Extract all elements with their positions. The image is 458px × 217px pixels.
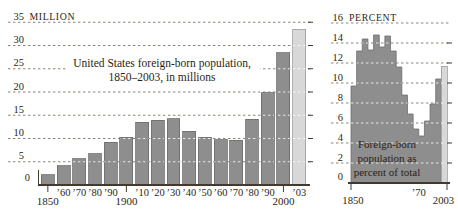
x-axis-label-minor: ’20: [151, 187, 165, 198]
y-axis-label: 14: [333, 32, 344, 43]
bar: [214, 140, 227, 185]
annotation-line: population as: [358, 152, 417, 164]
chart-title-line: 1850–2003, in millions: [108, 71, 216, 84]
x-axis-label-minor: ’70: [72, 187, 86, 198]
bar: [73, 159, 86, 185]
x-axis-label: 2003: [433, 194, 454, 206]
x-axis-label-minor: ’40: [182, 187, 196, 198]
x-axis-label-minor: ’70: [229, 187, 243, 198]
bar: [230, 140, 243, 185]
x-axis-label: ’70: [412, 186, 426, 198]
y-axis-label: 10: [333, 72, 344, 83]
y-axis-label: 16: [333, 12, 344, 23]
millions-bar-chart: 51015202530350MILLIONUnited States forei…: [8, 11, 313, 207]
x-axis-label-minor: ’30: [167, 187, 181, 198]
chart-title-line: United States foreign-born population,: [73, 57, 251, 70]
foreign-born-figure: 51015202530350MILLIONUnited States forei…: [0, 0, 458, 217]
bar: [104, 142, 117, 185]
foreign-born-charts: 51015202530350MILLIONUnited States forei…: [0, 0, 458, 217]
bar: [57, 166, 70, 185]
y-axis-label: 25: [14, 57, 25, 68]
bar: [136, 122, 149, 185]
y-axis-label: 2: [338, 152, 343, 163]
x-axis-label-minor: ’10: [135, 187, 149, 198]
y-axis-label: 12: [333, 52, 344, 63]
bar: [198, 137, 211, 185]
bar: [183, 131, 196, 185]
x-axis-label-minor: ’80: [88, 187, 102, 198]
y-axis-label: 6: [338, 112, 343, 123]
annotation-line: percent of total: [354, 166, 421, 178]
y-axis-label: 20: [14, 81, 25, 92]
y-axis-label-zero: 0: [25, 172, 30, 183]
bar: [167, 119, 180, 185]
percent-area-chart: 2468101214160PERCENTForeign-bornpopulati…: [331, 12, 454, 207]
bar: [89, 154, 102, 185]
bar: [277, 53, 290, 185]
y-axis-unit-label: PERCENT: [349, 12, 397, 23]
y-axis-label: 8: [338, 92, 343, 103]
y-axis-label-zero: 0: [338, 171, 343, 182]
annotation-line: Foreign-born: [358, 138, 417, 150]
bar: [41, 175, 54, 185]
y-axis-label: 10: [14, 127, 25, 138]
y-axis-label: 35: [14, 11, 25, 22]
x-axis-label-minor: ’60: [57, 187, 71, 198]
bar: [120, 137, 133, 185]
area-highlight: [441, 66, 447, 183]
x-axis-label: 1850: [342, 194, 363, 206]
x-axis-label-minor: ’60: [214, 187, 228, 198]
x-axis-label-minor: ’80: [245, 187, 259, 198]
y-axis-label: 30: [14, 34, 25, 45]
bar: [151, 120, 164, 185]
x-axis-label-minor: ’03: [292, 187, 306, 198]
x-axis-label-minor: ’50: [198, 187, 212, 198]
y-axis-label: 5: [19, 150, 24, 161]
y-axis-unit-label: MILLION: [30, 11, 76, 22]
y-axis-label: 15: [14, 104, 25, 115]
y-axis-label: 4: [338, 132, 344, 143]
bar: [246, 119, 259, 185]
